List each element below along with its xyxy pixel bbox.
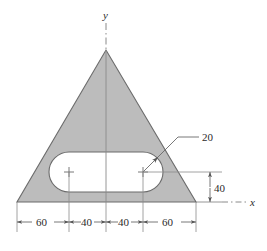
cross-section-body (17, 50, 196, 202)
y-axis-label: y (102, 9, 108, 21)
hdim-label-4: 60 (162, 216, 174, 228)
radius-dimension-label: 20 (202, 131, 214, 143)
x-axis-label: x (249, 196, 255, 208)
hdim-label-1: 60 (36, 216, 48, 228)
hdim-label-3: 40 (118, 216, 130, 228)
vertical-dimension-label: 40 (214, 182, 226, 194)
engineering-drawing-figure: y x 20 40 (0, 0, 267, 251)
drawing-canvas: y x 20 40 (0, 0, 267, 251)
hdim-label-2: 40 (81, 216, 93, 228)
